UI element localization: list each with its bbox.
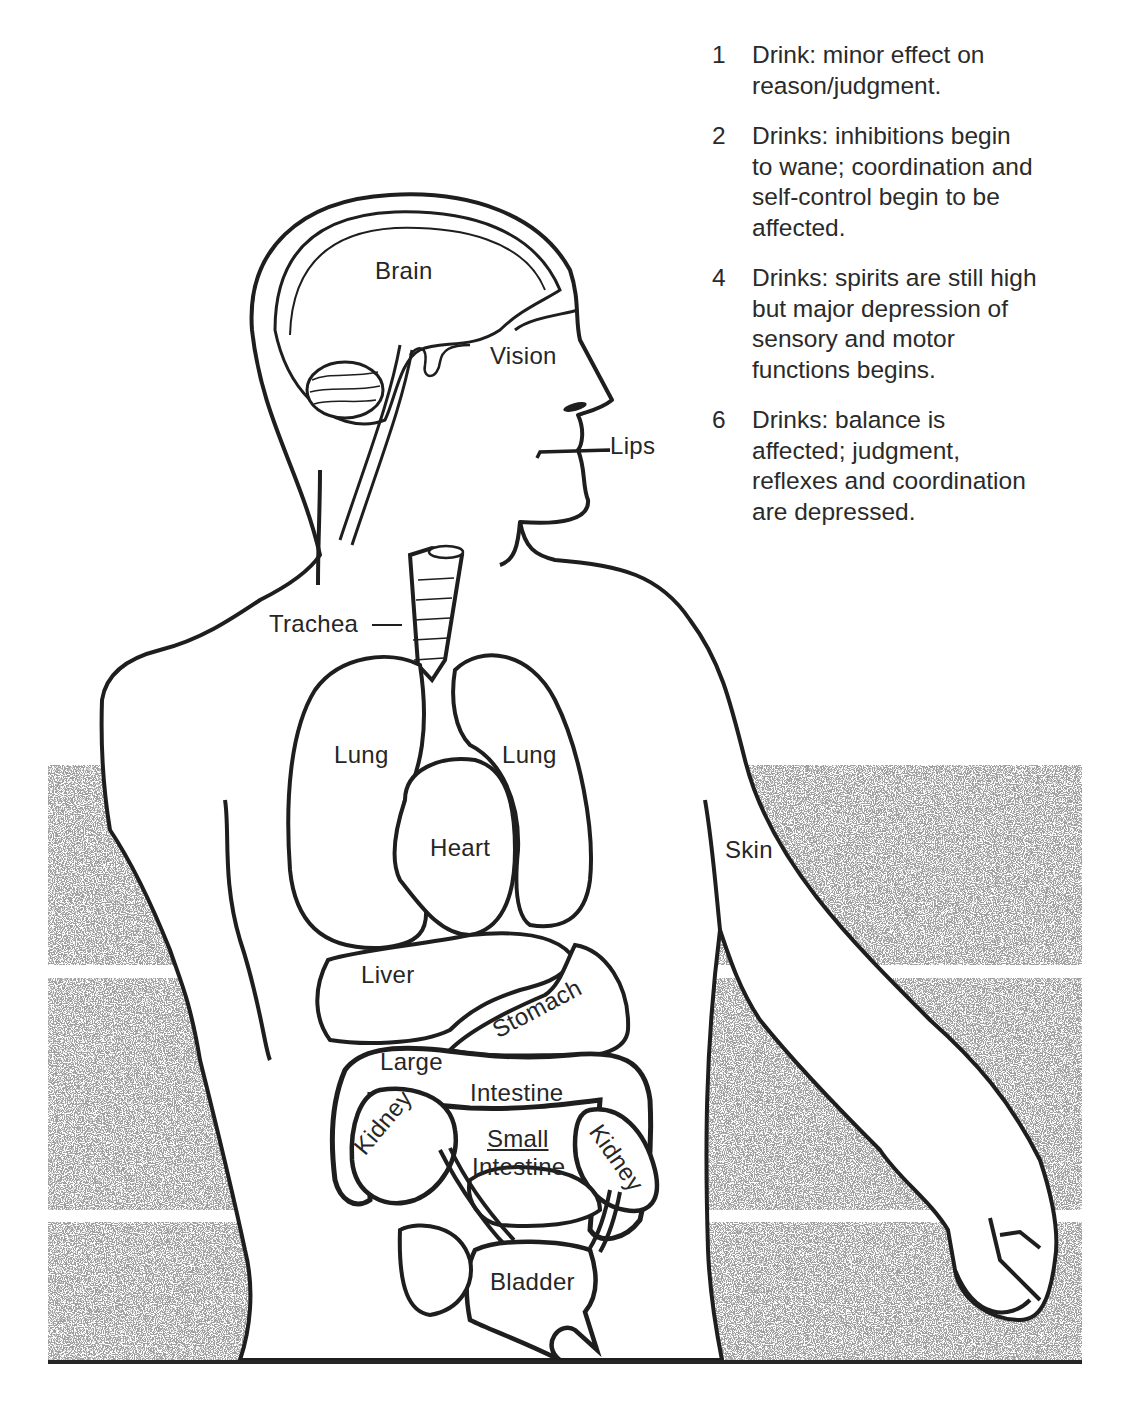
label-bladder: Bladder [490,1270,575,1294]
label-lung-right: Lung [502,743,557,767]
label-large-intestine-line1: Large [380,1050,443,1074]
drink-effect-text: Drinks: inhibitions begin to wane; coord… [752,121,1033,243]
neck-left [318,470,320,585]
drink-count: 6 [712,405,752,527]
drink-effects-legend: 1 Drink: minor effect on reason/judgment… [712,40,1112,547]
drink-count: 4 [712,263,752,385]
legend-item-4-drinks: 4 Drinks: spirits are still high but maj… [712,263,1112,385]
drink-count: 1 [712,40,752,101]
drink-effect-text: Drinks: balance is affected; judgment, r… [752,405,1026,527]
label-brain: Brain [375,259,433,283]
label-trachea: Trachea [269,612,358,636]
legend-item-1-drink: 1 Drink: minor effect on reason/judgment… [712,40,1112,101]
anatomy-figure: Brain Vision Lips Trachea Lung Lung Hear… [0,0,1130,1420]
label-lips: Lips [610,434,655,458]
legend-item-6-drinks: 6 Drinks: balance is affected; judgment,… [712,405,1112,527]
label-skin: Skin [725,838,773,862]
label-heart: Heart [430,836,490,860]
drink-effect-text: Drink: minor effect on reason/judgment. [752,40,984,101]
drink-effect-text: Drinks: spirits are still high but major… [752,263,1037,385]
label-liver: Liver [361,963,415,987]
drink-count: 2 [712,121,752,243]
label-lung-left: Lung [334,743,389,767]
label-small-intestine-line2: Intestine [472,1155,565,1179]
legend-item-2-drinks: 2 Drinks: inhibitions begin to wane; coo… [712,121,1112,243]
label-small-intestine-line1: Small [487,1127,549,1151]
sigmoid-colon [400,1225,471,1315]
label-large-intestine-line2: Intestine [470,1081,563,1105]
label-vision: Vision [490,344,557,368]
